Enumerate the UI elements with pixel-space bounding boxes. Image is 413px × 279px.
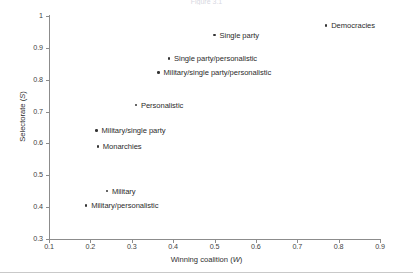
x-tick-label: 0.1 [34, 242, 64, 251]
figure-container: Figure 3.1 0.30.40.50.60.70.80.91 0.10.2… [0, 0, 413, 279]
y-tick-label-text: 0.6 [33, 138, 43, 147]
x-tick-label: 0.4 [158, 242, 188, 251]
data-point-marker [135, 104, 138, 107]
data-point-marker [325, 24, 328, 27]
y-axis-title-text: Selectorate ( [18, 99, 27, 142]
y-tick-mark [46, 80, 49, 81]
data-point-marker [168, 57, 171, 60]
x-axis-title: Winning coalition (W) [0, 255, 413, 264]
data-point-label: Military/personalistic [91, 201, 158, 210]
y-axis-title-var: S [18, 94, 27, 99]
data-point-label: Monarchies [103, 142, 142, 151]
data-point-label: Single party/personalistic [174, 54, 257, 63]
x-tick-label: 0.3 [117, 242, 147, 251]
page-divider-rule [0, 272, 413, 273]
y-tick-mark [46, 16, 49, 17]
y-axis-title-host: Selectorate (S) [8, 0, 22, 240]
y-tick-mark [46, 143, 49, 144]
data-point-label: Military/single party [102, 126, 166, 135]
x-tick-label: 0.5 [200, 242, 230, 251]
x-tick-label: 0.6 [241, 242, 271, 251]
x-axis-title-text: Winning coalition ( [171, 255, 233, 264]
y-tick-mark [46, 112, 49, 113]
data-point-label: Military [112, 187, 136, 196]
x-tick-label: 0.2 [75, 242, 105, 251]
figure-caption: Figure 3.1 [0, 0, 413, 5]
x-axis-title-var: W [233, 255, 240, 264]
y-axis-title-tail: ) [18, 91, 27, 94]
x-axis-title-tail: ) [240, 255, 243, 264]
data-point-marker [95, 129, 98, 132]
data-point-marker [106, 190, 109, 193]
y-tick-label-text: 0.4 [33, 202, 43, 211]
y-tick-label-text: 0.8 [33, 75, 43, 84]
data-point-label: Single party [220, 31, 260, 40]
data-point-label: Personalistic [141, 101, 183, 110]
data-point-marker [97, 145, 100, 148]
y-tick-label-text: 0.7 [33, 107, 43, 116]
x-tick-label: 0.7 [282, 242, 312, 251]
data-point-label: Military/single party/personalistic [164, 68, 272, 77]
x-tick-label: 0.9 [365, 242, 395, 251]
x-tick-label: 0.8 [324, 242, 354, 251]
y-tick-mark [46, 207, 49, 208]
y-axis-line [49, 15, 50, 240]
y-axis-title: Selectorate (S) [18, 57, 27, 177]
y-tick-label-text: 0.9 [33, 43, 43, 52]
y-tick-mark [46, 48, 49, 49]
data-point-marker [213, 34, 216, 37]
y-tick-label-text: 0.5 [33, 170, 43, 179]
y-tick-mark [46, 175, 49, 176]
data-point-marker [157, 71, 160, 74]
data-point-marker [85, 204, 88, 207]
data-point-label: Democracies [331, 21, 375, 30]
y-tick-label-text: 1 [39, 11, 43, 20]
